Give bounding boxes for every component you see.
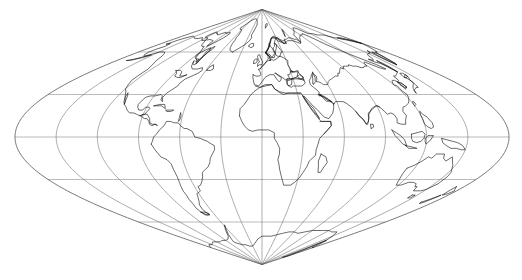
world-map-svg <box>0 0 522 280</box>
map-background <box>0 0 522 280</box>
world-map-figure <box>0 0 522 280</box>
